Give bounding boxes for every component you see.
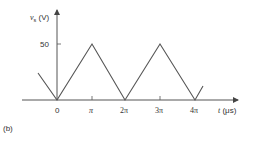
chart-svg: vs (V) 50 0 π 2π 3π 4π t (μs) (b) — [0, 0, 253, 142]
x-tick-label-2pi: 2π — [120, 106, 128, 115]
y-tick-label-50: 50 — [40, 40, 49, 49]
figure-caption: (b) — [3, 124, 13, 133]
x-tick-label-3pi: 3π — [155, 106, 163, 115]
triangle-waveform — [38, 44, 203, 100]
x-tick-label-0: 0 — [55, 106, 60, 115]
x-tick-label-pi: π — [89, 106, 94, 115]
x-tick-label-4pi: 4π — [190, 106, 198, 115]
y-axis-label: vs (V) — [30, 13, 50, 23]
x-axis-label: t (μs) — [218, 106, 237, 115]
